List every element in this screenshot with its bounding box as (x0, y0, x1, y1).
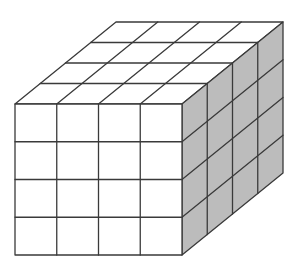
prism-drawing (0, 0, 301, 273)
cube-prism-figure (0, 0, 301, 273)
front-face (15, 104, 182, 255)
